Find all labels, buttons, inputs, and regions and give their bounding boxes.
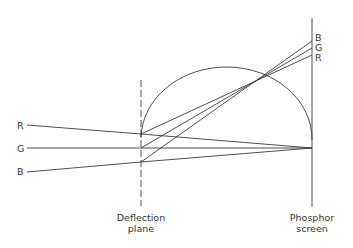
convergence-arc [141, 67, 312, 140]
label-right-r: R [315, 52, 322, 63]
crt-convergence-diagram: R G B B G R Deflection plane Phosphor sc… [0, 0, 353, 248]
beam-b-deflected [141, 41, 312, 162]
label-left-g: G [17, 143, 24, 154]
phosphor-screen-caption-2: screen [296, 223, 328, 234]
deflection-plane-caption-2: plane [128, 223, 155, 234]
beam-g-deflected [141, 48, 312, 148]
beam-b-incoming [27, 148, 312, 172]
label-left-b: B [17, 166, 24, 177]
label-left-r: R [17, 120, 24, 131]
deflection-plane-caption-1: Deflection [117, 212, 165, 223]
phosphor-screen-caption-1: Phosphor [290, 212, 334, 223]
beam-r-incoming [27, 125, 312, 148]
